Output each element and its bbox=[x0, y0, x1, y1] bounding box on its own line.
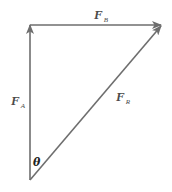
label-fa-subscript: A bbox=[21, 102, 25, 110]
vector-triangle bbox=[0, 0, 172, 192]
label-fb-subscript: B bbox=[104, 16, 108, 24]
label-fb: FB bbox=[94, 8, 108, 24]
label-fa-name: F bbox=[11, 93, 20, 108]
angle-theta-label: θ bbox=[33, 157, 40, 168]
label-fr-subscript: R bbox=[126, 98, 130, 106]
force-vector-diagram: FB FA FR θ bbox=[0, 0, 172, 192]
vector-fr-arrow bbox=[30, 26, 161, 180]
label-fr-name: F bbox=[116, 89, 125, 104]
label-fr: FR bbox=[116, 90, 130, 106]
label-fa: FA bbox=[11, 94, 25, 110]
label-fb-name: F bbox=[94, 7, 103, 22]
